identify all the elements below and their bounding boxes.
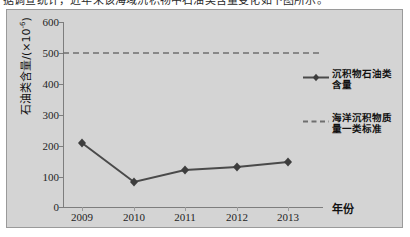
caption-strip: 据调查统计，近年来该海域沉积物中石油类含量变化如下图所示。	[0, 0, 410, 8]
dashed-line-icon	[303, 117, 329, 126]
legend-item-sediment-petroleum: 沉积物石油类含量	[303, 68, 403, 90]
plot-area: 600 500 400 300 200 100 0 2009 2010 2011…	[7, 10, 402, 227]
legend-label-sediment-petroleum: 沉积物石油类含量	[332, 68, 398, 90]
data-point-2012	[233, 163, 241, 172]
legend-label-class-i-standard: 海洋沉积物质量一类标准	[332, 112, 398, 134]
data-point-2013	[284, 158, 292, 167]
line-diamond-marker-icon	[303, 73, 329, 82]
series-markers	[78, 139, 292, 187]
series-line-sediment-petroleum	[82, 143, 288, 182]
caption-text: 据调查统计，近年来该海域沉积物中石油类含量变化如下图所示。	[3, 0, 328, 7]
chart-legend: 沉积物石油类含量 海洋沉积物质量一类标准	[303, 68, 403, 156]
chart-figure: 600 500 400 300 200 100 0 2009 2010 2011…	[6, 9, 403, 228]
data-point-2011	[181, 166, 189, 175]
legend-item-class-i-standard: 海洋沉积物质量一类标准	[303, 112, 403, 134]
